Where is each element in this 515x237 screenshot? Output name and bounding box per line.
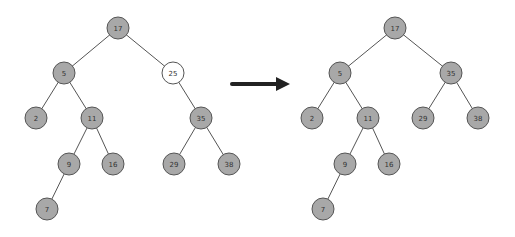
arrow-head [276, 77, 290, 91]
tree-node-11: 11 [357, 107, 379, 129]
tree-node-25: 25 [162, 62, 184, 84]
node-label: 29 [170, 161, 179, 169]
bst-deletion-diagram: 175252113591629387 1753521129389167 [0, 0, 515, 237]
tree-node-11: 11 [81, 107, 103, 129]
diagram-canvas: 175252113591629387 1753521129389167 [0, 0, 515, 237]
tree-node-16: 16 [102, 153, 124, 175]
node-label: 11 [88, 115, 97, 123]
tree-node-16: 16 [378, 153, 400, 175]
tree-node-9: 9 [334, 153, 356, 175]
node-label: 9 [343, 161, 347, 169]
tree-node-7: 7 [36, 198, 58, 220]
node-label: 38 [225, 161, 234, 169]
tree-node-2: 2 [25, 107, 47, 129]
tree-node-35: 35 [440, 62, 462, 84]
after-tree-edges [312, 28, 478, 209]
tree-node-38: 38 [467, 107, 489, 129]
node-label: 38 [474, 115, 483, 123]
node-label: 7 [321, 206, 325, 214]
tree-node-35: 35 [190, 107, 212, 129]
right-arrow-icon [232, 77, 290, 91]
node-label: 9 [67, 161, 71, 169]
node-label: 17 [391, 25, 400, 33]
after-tree: 1753521129389167 [301, 17, 489, 220]
tree-node-29: 29 [412, 107, 434, 129]
node-label: 2 [34, 115, 38, 123]
after-tree-nodes: 1753521129389167 [301, 17, 489, 220]
tree-node-5: 5 [329, 62, 351, 84]
node-label: 2 [310, 115, 314, 123]
tree-node-2: 2 [301, 107, 323, 129]
node-label: 17 [114, 25, 123, 33]
tree-node-9: 9 [58, 153, 80, 175]
node-label: 29 [419, 115, 428, 123]
tree-node-17: 17 [107, 17, 129, 39]
tree-node-7: 7 [312, 198, 334, 220]
node-label: 35 [197, 115, 206, 123]
before-tree: 175252113591629387 [25, 17, 240, 220]
node-label: 16 [109, 161, 118, 169]
before-tree-nodes: 175252113591629387 [25, 17, 240, 220]
tree-node-29: 29 [163, 153, 185, 175]
node-label: 5 [62, 70, 66, 78]
node-label: 35 [447, 70, 456, 78]
tree-node-38: 38 [218, 153, 240, 175]
node-label: 5 [338, 70, 342, 78]
tree-node-17: 17 [384, 17, 406, 39]
node-label: 11 [364, 115, 373, 123]
node-label: 7 [45, 206, 49, 214]
node-label: 25 [169, 70, 178, 78]
tree-node-5: 5 [53, 62, 75, 84]
node-label: 16 [385, 161, 394, 169]
